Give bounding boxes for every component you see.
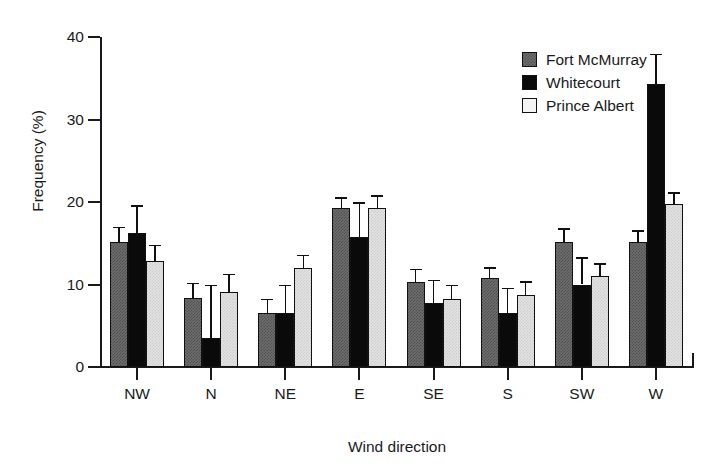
error-bar-stem <box>507 288 509 314</box>
error-bar-stem <box>267 299 269 313</box>
error-bar-cap <box>223 274 235 276</box>
y-axis-tick-label: 20 <box>38 194 84 210</box>
error-bar-cap <box>335 197 347 199</box>
error-bar-cap <box>594 263 606 265</box>
bar <box>481 278 499 367</box>
legend-label: Whitecourt <box>546 74 620 92</box>
x-axis-tick-label: W <box>616 385 696 403</box>
error-bar-stem <box>525 281 527 295</box>
bar <box>443 299 461 367</box>
error-bar-stem <box>192 283 194 298</box>
bar <box>350 237 368 367</box>
error-bar-stem <box>210 285 212 339</box>
error-bar-cap <box>446 285 458 287</box>
error-bar-stem <box>637 230 639 242</box>
bar <box>146 261 164 367</box>
legend-swatch <box>522 98 537 113</box>
error-bar-cap <box>576 257 588 259</box>
legend-swatch <box>522 75 537 90</box>
error-bar-stem <box>377 195 379 207</box>
error-bar-cap <box>371 195 383 197</box>
bar <box>128 233 146 367</box>
error-bar-cap <box>261 299 273 301</box>
x-axis-tick <box>284 367 286 380</box>
error-bar-cap <box>113 227 125 229</box>
x-axis-tick-label: E <box>319 385 399 403</box>
bar <box>517 295 535 367</box>
x-axis-tick <box>210 367 212 380</box>
bar <box>258 313 276 367</box>
error-bar-stem <box>673 192 675 204</box>
error-bar-stem <box>154 245 156 261</box>
error-bar-cap <box>558 228 570 230</box>
x-axis-tick <box>507 367 509 380</box>
bar <box>555 242 573 367</box>
error-bar-cap <box>131 205 143 207</box>
x-axis-tick <box>433 367 435 380</box>
wind-direction-frequency-chart: Frequency (%) Wind direction 010203040 N… <box>0 0 726 476</box>
bar <box>332 208 350 367</box>
bar <box>368 208 386 367</box>
bar <box>665 204 683 367</box>
y-axis-tick <box>88 119 100 121</box>
bar <box>573 285 591 368</box>
x-axis-tick <box>358 367 360 380</box>
y-axis-tick <box>88 284 100 286</box>
x-axis-tick <box>136 367 138 380</box>
bar <box>647 84 665 367</box>
error-bar-cap <box>353 202 365 204</box>
bar <box>110 242 128 367</box>
error-bar-stem <box>563 228 565 242</box>
x-axis-tick <box>655 367 657 380</box>
error-bar-cap <box>205 285 217 287</box>
error-bar-cap <box>520 281 532 283</box>
legend-item: Prince Albert <box>522 94 647 117</box>
bar <box>220 292 238 367</box>
error-bar-stem <box>341 197 343 208</box>
x-axis-tick-label: SW <box>542 385 622 403</box>
error-bar-stem <box>433 280 435 303</box>
legend-swatch <box>522 52 537 67</box>
error-bar-stem <box>285 285 287 313</box>
error-bar-cap <box>279 285 291 287</box>
error-bar-stem <box>359 202 361 237</box>
legend-label: Prince Albert <box>546 97 634 115</box>
x-axis-tick <box>581 367 583 380</box>
bar <box>202 338 220 367</box>
bar <box>591 276 609 367</box>
x-axis-tick-label: N <box>171 385 251 403</box>
error-bar-cap <box>149 245 161 247</box>
y-axis-tick <box>88 366 100 368</box>
y-axis-tick-label: 10 <box>38 277 84 293</box>
error-bar-stem <box>655 54 657 85</box>
bar <box>276 313 294 367</box>
error-bar-stem <box>489 267 491 278</box>
error-bar-stem <box>303 255 305 268</box>
error-bar-stem <box>118 227 120 242</box>
error-bar-cap <box>187 283 199 285</box>
error-bar-cap <box>650 54 662 56</box>
y-axis-tick-label: 30 <box>38 112 84 128</box>
bar <box>499 313 517 367</box>
error-bar-cap <box>484 267 496 269</box>
y-axis-tick-label: 0 <box>38 359 84 375</box>
bar <box>407 282 425 367</box>
x-axis-tick-label: NW <box>97 385 177 403</box>
error-bar-cap <box>410 269 422 271</box>
y-axis-title: Frequency (%) <box>29 61 47 261</box>
x-axis-tick-label: S <box>468 385 548 403</box>
y-axis-tick <box>88 36 100 38</box>
error-bar-cap <box>632 230 644 232</box>
error-bar-stem <box>228 274 230 292</box>
error-bar-cap <box>668 192 680 194</box>
error-bar-cap <box>428 280 440 282</box>
bar <box>425 303 443 367</box>
legend-label: Fort McMurray <box>546 51 647 69</box>
x-axis-tick-label: SE <box>394 385 474 403</box>
error-bar-cap <box>297 255 309 257</box>
error-bar-stem <box>581 257 583 284</box>
error-bar-stem <box>136 205 138 232</box>
y-axis-tick <box>88 201 100 203</box>
error-bar-stem <box>415 269 417 282</box>
error-bar-cap <box>502 288 514 290</box>
